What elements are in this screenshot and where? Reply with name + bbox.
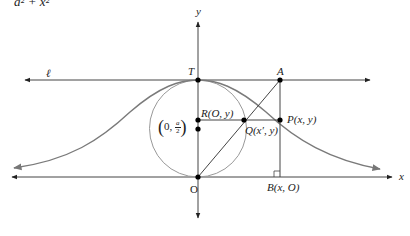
label-P: P(x, y) <box>287 114 316 125</box>
origin-label: O <box>190 184 198 195</box>
label-Q: Q(x′, y) <box>245 125 278 136</box>
label-R: R(O, y) <box>201 108 233 119</box>
point-Q <box>241 117 246 122</box>
point-P <box>277 117 282 122</box>
point-R <box>195 117 200 122</box>
y-axis-label: y <box>196 6 201 17</box>
witch-curve <box>14 80 380 169</box>
x-axis-label: x <box>399 171 404 182</box>
point-O <box>195 174 200 179</box>
point-A <box>277 77 282 82</box>
label-B: B(x, O) <box>267 182 299 193</box>
line-l-label: ℓ <box>46 68 51 79</box>
point-T <box>195 77 200 82</box>
label-center: (0, a2) <box>158 118 187 136</box>
point-center <box>195 126 200 131</box>
label-T: T <box>188 66 194 77</box>
label-A: A <box>277 66 284 77</box>
right-angle-mark <box>274 171 280 177</box>
